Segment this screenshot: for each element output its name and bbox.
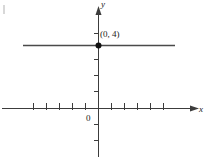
origin-label: 0: [86, 114, 91, 123]
data-point-marker: [96, 43, 102, 49]
x-axis-label: x: [199, 105, 203, 114]
coordinate-plane-figure: x y 0 (0, 4): [0, 0, 210, 160]
point-coordinate-label: (0, 4): [100, 30, 120, 39]
graph-canvas: [0, 0, 210, 160]
y-axis-label: y: [101, 0, 105, 9]
x-axis-arrow-icon: [190, 106, 199, 112]
scan-artifact: [3, 5, 5, 14]
